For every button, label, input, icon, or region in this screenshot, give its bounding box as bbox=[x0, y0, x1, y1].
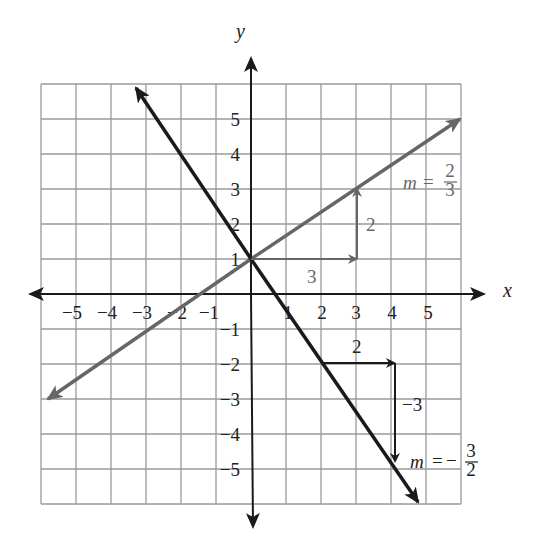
y-tick: −5 bbox=[220, 459, 240, 480]
slope-equals: = bbox=[423, 171, 434, 192]
x-tick: −3 bbox=[132, 302, 152, 323]
x-tick: 3 bbox=[351, 302, 361, 323]
y-tick: 3 bbox=[231, 179, 241, 200]
x-tick: 5 bbox=[423, 302, 433, 323]
y-tick: −4 bbox=[220, 424, 241, 445]
y-tick: −2 bbox=[220, 354, 240, 375]
slope-m: m bbox=[410, 451, 424, 472]
x-tick: −4 bbox=[97, 302, 118, 323]
slope-equals: = bbox=[432, 450, 443, 471]
slope-numerator: 2 bbox=[445, 160, 455, 181]
x-axis-label: x bbox=[502, 279, 512, 301]
x-tick: −5 bbox=[62, 302, 82, 323]
y-tick: −1 bbox=[220, 319, 240, 340]
x-tick: 4 bbox=[387, 302, 397, 323]
slope-label-positive: m = 2 3 bbox=[403, 160, 457, 200]
x-tick: 2 bbox=[317, 302, 327, 323]
y-tick: −3 bbox=[220, 389, 240, 410]
slope-denominator: 2 bbox=[466, 459, 476, 480]
slope-m: m bbox=[403, 172, 417, 193]
coordinate-plane: y x −5 −4 −3 −2 −1 1 2 3 4 5 5 4 3 2 1 −… bbox=[0, 0, 538, 547]
y-tick: 5 bbox=[231, 109, 241, 130]
slope-denominator: 3 bbox=[445, 179, 455, 200]
line-negative-slope-down bbox=[251, 259, 418, 502]
rise-label-positive: 2 bbox=[366, 214, 376, 235]
run-label-negative: 2 bbox=[352, 336, 362, 357]
run-label-positive: 3 bbox=[307, 266, 317, 287]
y-tick: 4 bbox=[231, 144, 241, 165]
y-axis-label: y bbox=[234, 20, 245, 43]
rise-label-negative: −3 bbox=[402, 394, 422, 415]
slope-label-negative: m = − 3 2 bbox=[410, 440, 478, 480]
slope-sign: − bbox=[446, 450, 457, 471]
slope-numerator: 3 bbox=[466, 440, 476, 461]
x-tick: −1 bbox=[199, 302, 219, 323]
x-tick-labels: −5 −4 −3 −2 −1 1 2 3 4 5 bbox=[62, 302, 433, 323]
